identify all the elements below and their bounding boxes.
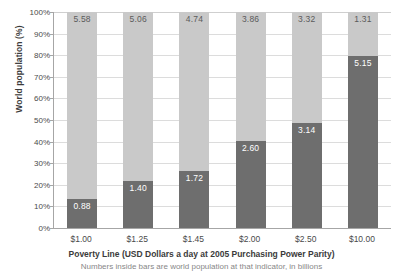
bar-group[interactable]: 3.323.14 [292, 12, 322, 228]
bar-segment-label: 5.58 [73, 12, 90, 24]
y-axis-tick-label: 80% [22, 51, 50, 60]
bar-segment-lower[interactable]: 1.72 [179, 171, 209, 228]
bar-stack: 5.580.88 [67, 12, 97, 228]
bar-segment-lower[interactable]: 2.60 [236, 141, 266, 228]
stacked-bar-chart: World population (%) 0%10%20%30%40%50%60… [0, 0, 403, 271]
x-axis-tick-label: $1.00 [70, 234, 91, 244]
y-axis-tick-label: 0% [22, 224, 50, 233]
bar-segment-label: 2.60 [242, 141, 259, 153]
y-axis-tick-label: 90% [22, 29, 50, 38]
bar-stack: 3.323.14 [292, 12, 322, 228]
bar-segment-label: 1.31 [354, 12, 371, 24]
bar-stack: 3.862.60 [236, 12, 266, 228]
y-axis-tick-label: 30% [22, 159, 50, 168]
bar-group[interactable]: 1.315.15 [348, 12, 378, 228]
y-axis-tick-label: 100% [22, 8, 50, 17]
y-axis-tick-label: 10% [22, 202, 50, 211]
bar-segment-lower[interactable]: 3.14 [292, 123, 322, 228]
bar-segment-label: 3.86 [242, 12, 259, 24]
y-axis-tick-label: 60% [22, 94, 50, 103]
bar-segment-label: 0.88 [73, 199, 90, 211]
y-axis-tick-label: 40% [22, 137, 50, 146]
x-axis-tick-label: $2.50 [295, 234, 316, 244]
bar-segment-label: 3.32 [298, 12, 315, 24]
bar-group[interactable]: 4.741.72 [179, 12, 209, 228]
bar-stack: 1.315.15 [348, 12, 378, 228]
x-axis-tick-label: $1.25 [127, 234, 148, 244]
y-axis-tick-labels: 0%10%20%30%40%50%60%70%80%90%100% [22, 12, 50, 228]
bar-stack: 5.061.40 [123, 12, 153, 228]
x-axis-tick-labels: $1.00$1.25$1.45$2.00$2.50$10.00 [53, 234, 390, 246]
y-axis-tick-label: 20% [22, 180, 50, 189]
bar-segment-label: 1.40 [130, 181, 147, 193]
bar-segment-upper[interactable]: 1.31 [348, 12, 378, 56]
bar-group[interactable]: 5.580.88 [67, 12, 97, 228]
bar-segment-upper[interactable]: 5.06 [123, 12, 153, 181]
bar-segment-upper[interactable]: 5.58 [67, 12, 97, 199]
x-axis-tick-label: $10.00 [349, 234, 375, 244]
x-axis-title: Poverty Line (USD Dollars a day at 2005 … [0, 249, 403, 259]
bar-group[interactable]: 5.061.40 [123, 12, 153, 228]
y-axis-tick-label: 70% [22, 72, 50, 81]
bar-segment-label: 1.72 [186, 171, 203, 183]
bar-segment-upper[interactable]: 3.86 [236, 12, 266, 141]
plot-area: 5.580.885.061.404.741.723.862.603.323.14… [53, 12, 391, 229]
bar-segment-upper[interactable]: 3.32 [292, 12, 322, 123]
x-axis-tick-label: $2.00 [239, 234, 260, 244]
bar-segment-lower[interactable]: 5.15 [348, 56, 378, 228]
bar-segment-label: 5.15 [354, 56, 371, 68]
bar-stack: 4.741.72 [179, 12, 209, 228]
chart-caption: Numbers inside bars are world population… [0, 262, 403, 271]
bar-segment-lower[interactable]: 1.40 [123, 181, 153, 228]
bar-segment-upper[interactable]: 4.74 [179, 12, 209, 171]
bar-segment-label: 5.06 [130, 12, 147, 24]
bar-group[interactable]: 3.862.60 [236, 12, 266, 228]
bar-segment-lower[interactable]: 0.88 [67, 199, 97, 228]
x-axis-tick-label: $1.45 [183, 234, 204, 244]
y-axis-tick-mark [50, 228, 54, 229]
y-axis-tick-label: 50% [22, 116, 50, 125]
bar-segment-label: 3.14 [298, 123, 315, 135]
bars-layer: 5.580.885.061.404.741.723.862.603.323.14… [54, 12, 391, 228]
bar-segment-label: 4.74 [186, 12, 203, 24]
